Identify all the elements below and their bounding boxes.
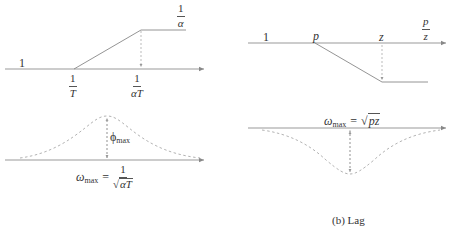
lag-break-p-label: p <box>313 30 319 42</box>
lag-break-z-label: z <box>379 31 384 43</box>
lag-magnitude-plot <box>248 43 446 82</box>
omega-max-sqrt: √αT <box>113 178 133 191</box>
lead-high-level-den: α <box>178 17 184 30</box>
lead-phase-plot <box>5 116 204 160</box>
lag-omega-subscript: max <box>332 120 346 129</box>
lag-equals-sign: = <box>350 114 357 129</box>
omega-max-symbol: ωmax <box>76 170 98 185</box>
lead-magnitude-plot <box>5 30 204 69</box>
lag-high-level-label: p z <box>422 16 430 42</box>
lag-low-level-label: 1 <box>263 31 269 43</box>
lead-break-2-den: αT <box>131 87 143 100</box>
lead-break-1-num: 1 <box>69 73 77 87</box>
lag-high-level-den: z <box>424 30 428 43</box>
omega-subscript: max <box>84 176 98 185</box>
omega-max-fraction: 1 √αT <box>113 164 133 190</box>
lead-high-level-label: 1 α <box>177 3 185 29</box>
omega-max-radicand: αT <box>119 178 133 191</box>
phi-subscript: max <box>116 136 130 145</box>
equals-sign: = <box>102 170 109 185</box>
lag-omega-max-radicand: pz <box>368 113 381 129</box>
lead-break-1-label: 1 T <box>69 73 77 99</box>
lag-phase-plot <box>248 128 446 174</box>
lead-low-level-label: 1 <box>19 57 25 69</box>
lead-phi-max-label: ϕmax <box>110 131 130 143</box>
lead-high-level-num: 1 <box>177 3 185 17</box>
lag-caption: (b) Lag <box>332 214 365 226</box>
lead-break-1-den: T <box>70 87 76 100</box>
lag-phase-curve <box>262 130 440 174</box>
lag-omega-max-symbol: ωmax <box>324 114 346 129</box>
lag-omega-max-formula: ωmax = √pz <box>324 113 380 129</box>
lag-omega-max-sqrt: √pz <box>361 113 380 129</box>
omega-max-num: 1 <box>119 164 127 178</box>
lead-break-2-label: 1 αT <box>131 73 143 99</box>
lag-magnitude-asymptote <box>315 43 428 82</box>
lag-high-level-num: p <box>422 16 430 30</box>
lead-magnitude-asymptote <box>74 30 186 69</box>
lead-omega-max-formula: ωmax = 1 √αT <box>76 164 133 190</box>
lead-break-2-num: 1 <box>133 73 141 87</box>
